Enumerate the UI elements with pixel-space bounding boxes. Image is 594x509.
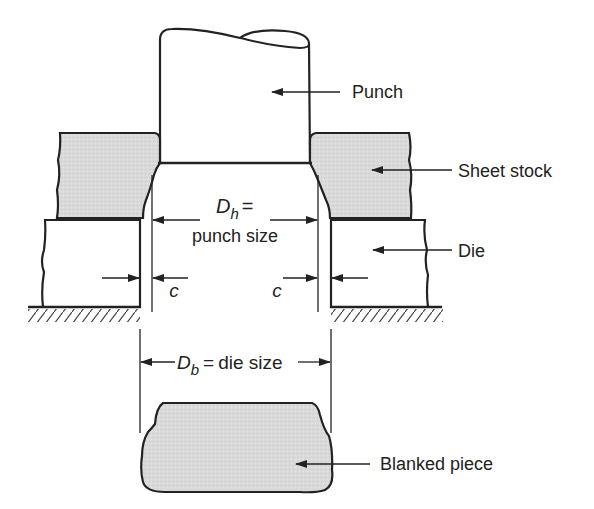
punch [160, 29, 310, 163]
blanked-piece [141, 403, 332, 492]
ground-hatch-right [331, 309, 443, 322]
die-right [330, 220, 443, 322]
die-label: Die [458, 241, 485, 261]
punch-label: Punch [352, 82, 403, 102]
punch-size-label: punch size [192, 226, 278, 246]
die-left [28, 220, 141, 322]
punch-size-symbol: Dh= [216, 195, 253, 222]
blanked-piece-label: Blanked piece [380, 454, 493, 474]
die-size-dimension: Db=die size [141, 352, 330, 378]
punch-size-dimension: Dh= punch size [153, 195, 317, 246]
clearance-left-symbol: c [169, 280, 179, 301]
sheet-stock-label: Sheet stock [458, 161, 553, 181]
ground-hatch-left [28, 309, 140, 322]
sheet-stock-right [310, 133, 411, 218]
sheet-stock-left [57, 133, 160, 218]
die-size-label: Db=die size [177, 352, 283, 378]
clearance-right-symbol: c [272, 280, 282, 301]
blanking-diagram: Dh= punch size c c Db=die size Punch She… [0, 0, 594, 509]
